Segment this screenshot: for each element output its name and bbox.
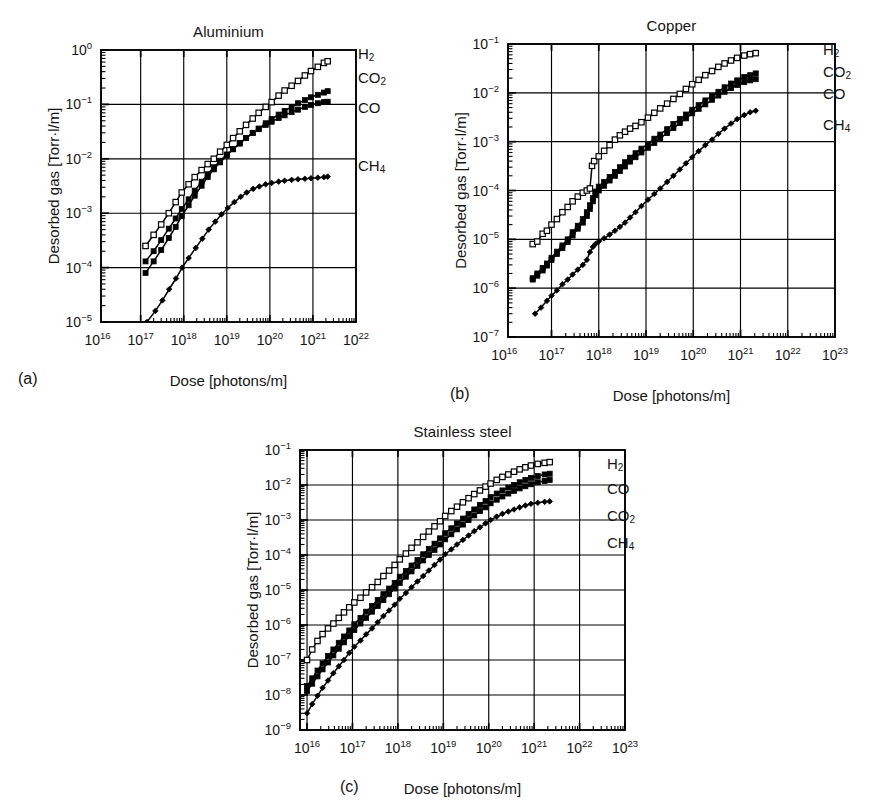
data-point-marker (358, 621, 363, 626)
data-point-marker (381, 597, 386, 602)
data-point-marker (560, 246, 565, 251)
data-point-marker (506, 485, 511, 490)
data-point-marker (320, 661, 325, 666)
data-point-marker (432, 541, 437, 546)
data-point-marker (250, 116, 255, 121)
data-point-marker (500, 474, 505, 479)
data-point-marker (449, 508, 454, 513)
data-point-marker (211, 156, 216, 161)
series-label-co2: CO2 (823, 64, 851, 81)
data-point-marker (703, 72, 708, 77)
data-point-marker (438, 536, 443, 541)
data-point-marker (523, 465, 528, 470)
data-point-marker (173, 224, 178, 229)
data-point-marker (742, 75, 747, 80)
data-point-marker (710, 97, 715, 102)
data-point-marker (426, 546, 431, 551)
y-axis-label: Desorbed gas [Torr·l/m] (45, 50, 62, 322)
data-point-marker (179, 190, 184, 195)
data-point-marker (716, 64, 721, 69)
data-point-marker (151, 232, 156, 237)
y-tick-label: 10−3 (66, 203, 92, 221)
data-point-marker (596, 154, 601, 159)
data-point-marker (403, 574, 408, 579)
x-tick-label: 1021 (300, 330, 326, 348)
data-point-marker (542, 479, 547, 484)
data-point-marker (748, 78, 753, 83)
data-point-marker (554, 216, 559, 221)
data-point-marker (173, 199, 178, 204)
x-tick-labels: 10161017101810191020102110221023 (294, 738, 638, 756)
series-label-co2: CO2 (607, 508, 635, 525)
data-point-marker (658, 136, 663, 141)
data-point-marker (375, 603, 380, 608)
data-point-marker (722, 61, 727, 66)
data-point-marker (289, 104, 294, 109)
data-point-marker (392, 580, 397, 585)
data-point-marker (420, 534, 425, 539)
y-tick-label: 10−4 (473, 181, 499, 199)
data-point-marker (472, 513, 477, 518)
data-point-marker (159, 248, 164, 253)
data-point-marker (570, 233, 575, 238)
data-point-marker (315, 668, 320, 673)
data-point-marker (544, 228, 549, 233)
data-point-marker (386, 568, 391, 573)
data-point-marker (494, 497, 499, 502)
data-point-marker (315, 101, 320, 106)
data-point-marker (565, 240, 570, 245)
x-tick-label: 1023 (612, 738, 638, 756)
data-point-marker (218, 160, 223, 165)
data-point-marker (633, 123, 638, 128)
y-tick-label: 10−7 (265, 650, 291, 668)
data-point-marker (612, 173, 617, 178)
data-point-marker (237, 141, 242, 146)
data-point-marker (217, 149, 222, 154)
data-point-marker (231, 147, 236, 152)
x-tick-label: 1022 (343, 330, 369, 348)
data-point-marker (677, 121, 682, 126)
data-point-marker (276, 116, 281, 121)
data-point-marker (295, 101, 300, 106)
data-point-marker (369, 585, 374, 590)
data-point-marker (658, 106, 663, 111)
data-point-marker (224, 153, 229, 158)
data-point-marker (454, 504, 459, 509)
data-point-marker (432, 524, 437, 529)
data-point-marker (460, 522, 465, 527)
data-point-marker (256, 110, 261, 115)
data-point-marker (639, 120, 644, 125)
data-point-marker (331, 653, 336, 658)
data-point-marker (282, 113, 287, 118)
y-tick-labels: 10−110−210−310−410−510−610−7 (473, 34, 499, 345)
y-tick-label: 10−8 (265, 685, 291, 703)
data-point-marker (358, 615, 363, 620)
data-point-marker (415, 540, 420, 545)
data-point-marker (305, 689, 310, 694)
data-point-marker (601, 148, 606, 153)
data-point-marker (523, 477, 528, 482)
figure-desorbed-gas-vs-dose: Aluminium1016101710181019102010211022100… (0, 0, 877, 811)
data-point-marker (443, 537, 448, 542)
data-point-marker (542, 472, 547, 477)
data-point-marker (336, 646, 341, 651)
data-point-marker (535, 461, 540, 466)
data-point-marker (331, 621, 336, 626)
data-point-marker (243, 122, 248, 127)
data-point-marker (409, 545, 414, 550)
data-point-marker (143, 243, 148, 248)
y-tick-label: 10−5 (473, 229, 499, 247)
data-point-marker (381, 573, 386, 578)
data-point-marker (547, 471, 552, 476)
data-point-marker (358, 595, 363, 600)
panel-tag: (c) (340, 778, 359, 796)
data-point-marker (633, 155, 638, 160)
data-point-marker (617, 169, 622, 174)
data-point-marker (540, 268, 545, 273)
data-point-marker (397, 557, 402, 562)
data-point-marker (289, 110, 294, 115)
data-point-marker (276, 93, 281, 98)
y-tick-label: 10−4 (265, 545, 291, 563)
data-point-marker (511, 483, 516, 488)
data-point-marker (421, 558, 426, 563)
